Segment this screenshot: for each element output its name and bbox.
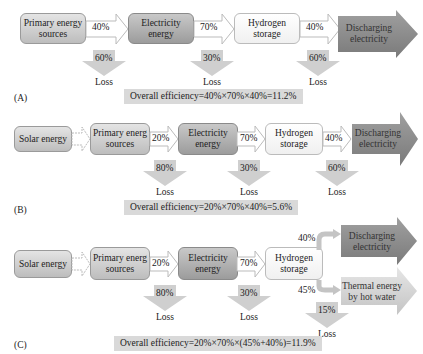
transfer-pct: 20% xyxy=(152,133,169,143)
loss-pct: 30% xyxy=(240,163,257,173)
transfer-pct: 70% xyxy=(240,258,257,268)
loss-label: Loss xyxy=(145,187,185,197)
loss-pct: 80% xyxy=(156,288,173,298)
panel-label: (C) xyxy=(14,340,27,350)
overall-efficiency: Overall efficiency=40%×70%×40%=11.2% xyxy=(124,89,303,104)
transfer-pct: 40% xyxy=(298,233,315,243)
node-electricity-energy: Electricityenergy xyxy=(178,247,238,280)
panel-label: (B) xyxy=(14,205,27,215)
node-discharging-electricity: Dischargingelectricity xyxy=(342,231,402,253)
loss-label: Loss xyxy=(229,187,269,197)
node-discharging-electricity: Dischargingelectricity xyxy=(340,23,398,45)
loss-pct: 60% xyxy=(328,163,345,173)
loss-pct: 30% xyxy=(203,53,220,63)
loss-label: Loss xyxy=(84,77,124,87)
overall-efficiency: Overall efficiency=20%×70%×(45%+40%)=11.… xyxy=(114,336,322,351)
node-thermal-energy-hot-water: Thermal energyby hot water xyxy=(340,281,404,303)
node-hydrogen-storage: Hydrogenstorage xyxy=(265,123,323,155)
loss-label: Loss xyxy=(145,312,185,322)
split-connector-icon xyxy=(315,228,341,294)
loss-label: Loss xyxy=(317,187,357,197)
loss-pct: 15% xyxy=(318,305,335,315)
node-solar-energy: Solar energy xyxy=(14,126,72,152)
node-electricity-energy: Electricityenergy xyxy=(128,13,194,44)
node-primary-energy-sources: Primary energsources xyxy=(90,247,150,280)
loss-label: Loss xyxy=(229,312,269,322)
transfer-pct: 40% xyxy=(306,22,323,32)
transfer-pct: 70% xyxy=(240,133,257,143)
node-hydrogen-storage: Hydrogenstorage xyxy=(234,13,300,44)
transfer-pct: 20% xyxy=(152,258,169,268)
dashed-arrow-icon xyxy=(72,252,90,276)
transfer-pct: 40% xyxy=(325,133,342,143)
loss-label: Loss xyxy=(192,77,232,87)
node-discharging-electricity: Dischargingelectricity xyxy=(352,128,404,150)
transfer-pct: 40% xyxy=(92,22,109,32)
node-solar-energy: Solar energy xyxy=(14,250,72,278)
loss-label: Loss xyxy=(298,77,338,87)
loss-pct: 80% xyxy=(156,163,173,173)
panel-label: (A) xyxy=(14,93,27,103)
transfer-pct: 70% xyxy=(200,22,217,32)
node-primary-energy-sources: Primary energysources xyxy=(20,13,86,44)
overall-efficiency: Overall efficiency=20%×70%×40%=5.6% xyxy=(124,200,298,215)
transfer-pct: 45% xyxy=(298,285,315,295)
dashed-arrow-icon xyxy=(72,127,90,151)
loss-pct: 60% xyxy=(309,53,326,63)
node-electricity-energy: Electricityenergy xyxy=(178,123,238,155)
node-primary-energy-sources: Primary energsources xyxy=(90,123,150,155)
loss-pct: 30% xyxy=(240,288,257,298)
loss-pct: 60% xyxy=(95,53,112,63)
